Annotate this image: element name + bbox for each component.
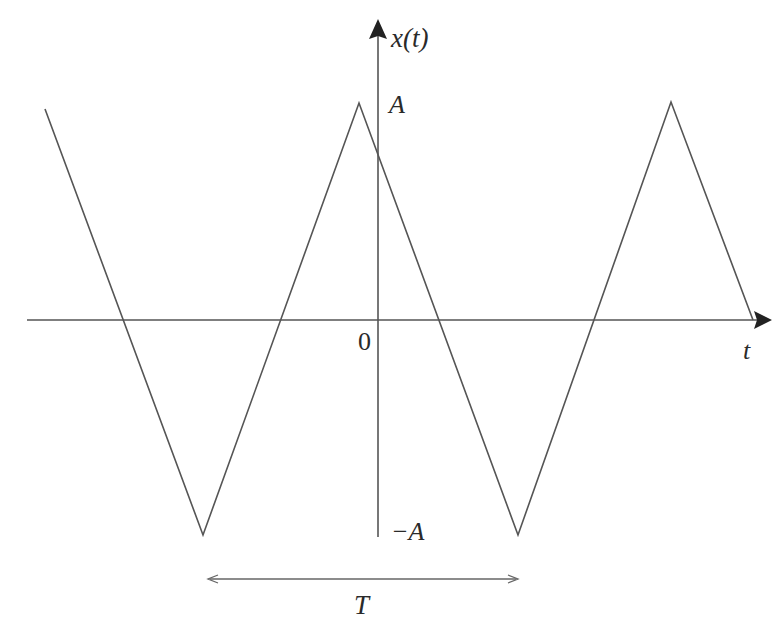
waveform <box>45 102 753 535</box>
triangular-wave-diagram: x(t) A 0 t −A T <box>0 0 784 633</box>
y-axis-label: x(t) <box>390 23 428 53</box>
x-axis-arrowhead-icon <box>369 19 387 39</box>
amplitude-pos-label: A <box>387 90 405 119</box>
x-axis-label: t <box>743 336 751 365</box>
amplitude-neg-label: −A <box>391 517 425 546</box>
period-label: T <box>354 590 371 620</box>
origin-label: 0 <box>358 327 371 356</box>
